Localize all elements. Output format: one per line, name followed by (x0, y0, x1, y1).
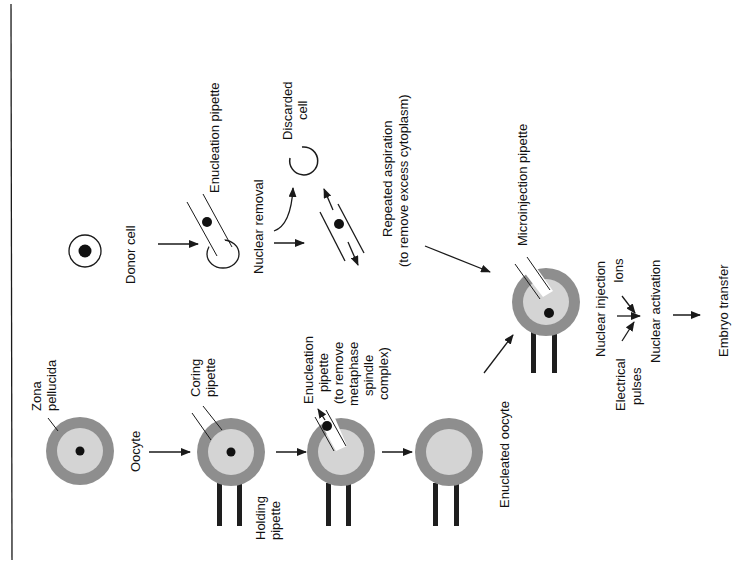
diagram-svg: Zona pellucida Oocyte Coring pipette Hol… (0, 0, 743, 564)
label-nuclear-injection: Nuclear injection (593, 261, 608, 357)
label-enuc-1: Enucleation (301, 336, 316, 404)
microinjection-cell (512, 257, 580, 373)
label-nuclear-removal: Nuclear removal (251, 179, 266, 274)
label-enuc-2: pipette (316, 353, 331, 392)
label-electrical-1: Electrical (613, 358, 628, 411)
label-enuc-5: spindle (361, 355, 376, 396)
label-ions: Ions (611, 258, 626, 283)
label-zona-1: Zona (29, 381, 44, 411)
nuclear-transfer-diagram: Zona pellucida Oocyte Coring pipette Hol… (0, 0, 743, 564)
holding-pipette-right (237, 483, 242, 526)
label-zona-2: pellucida (44, 359, 59, 411)
label-oocyte: Oocyte (128, 431, 143, 472)
label-electrical-2: pulses (629, 367, 644, 405)
label-coring-2: pipette (203, 358, 218, 397)
label-embryo-transfer: Embryo transfer (716, 264, 731, 357)
label-nuclear-activation: Nuclear activation (648, 260, 663, 363)
label-coring-1: Coring (188, 359, 203, 397)
border-line (11, 4, 12, 560)
label-enucleated-oocyte: Enucleated oocyte (497, 401, 512, 508)
enucleated-oocyte-cell (415, 418, 483, 526)
label-enuc-4: metaphase (346, 342, 361, 406)
label-enuc-6: complex) (376, 347, 391, 400)
label-enucleation-pipette: Enucleation pipette (207, 82, 222, 193)
label-holding-2: pipette (268, 501, 283, 540)
label-discarded-1: Discarded (280, 81, 295, 140)
label-enuc-3: (to remove (331, 342, 346, 404)
arrow-discard (274, 188, 293, 231)
label-holding-1: Holding (253, 496, 268, 540)
label-discarded-2: cell (295, 100, 310, 120)
aspiration-pipette (320, 189, 364, 265)
enucleation-pipette-donor (187, 194, 239, 268)
arrow-7 (425, 246, 490, 272)
holding-pipette-left (217, 483, 222, 526)
enucleation-cell (307, 409, 375, 526)
discarded-cell (290, 147, 318, 175)
activation-arrows (617, 296, 640, 341)
arrow-4 (484, 335, 513, 373)
donor-cell (69, 235, 101, 267)
label-repeated-aspiration-1: Repeated aspiration (380, 121, 395, 237)
label-donor-cell: Donor cell (123, 225, 138, 284)
label-microinjection-pipette: Microinjection pipette (515, 124, 530, 246)
label-repeated-aspiration-2: (to remove excess cytoplasm) (396, 94, 411, 267)
oocyte-cell (46, 417, 114, 485)
